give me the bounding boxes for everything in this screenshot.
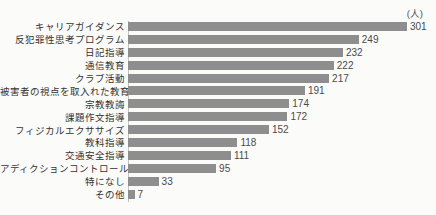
unit-label: (人) — [407, 6, 423, 20]
value-label: 301 — [410, 21, 427, 32]
bar — [128, 22, 407, 31]
chart-row: 日記指導232 — [0, 46, 436, 59]
bar — [128, 138, 237, 147]
bar-area: 301 — [128, 20, 427, 33]
bar-area: 152 — [128, 123, 289, 136]
value-label: 152 — [272, 124, 289, 135]
category-label: 課題作文指導 — [0, 110, 128, 124]
chart-row: 課題作文指導172 — [0, 110, 436, 123]
value-label: 7 — [138, 189, 144, 200]
category-label: アディクションコントロール — [0, 161, 128, 175]
bar-area: 174 — [128, 97, 309, 110]
value-label: 95 — [219, 163, 230, 174]
chart-rows: キャリアガイダンス301反犯罪性思考プログラム249日記指導232通信教育222… — [0, 20, 436, 200]
category-label: クラブ活動 — [0, 71, 128, 85]
bar — [128, 48, 343, 57]
category-label: その他 — [0, 187, 128, 201]
bar — [128, 61, 334, 70]
category-label: フィジカルエクササイズ — [0, 123, 128, 137]
category-label: 特になし — [0, 174, 128, 188]
bar-area: 222 — [128, 59, 353, 72]
category-label: 宗教教誨 — [0, 97, 128, 111]
bar — [128, 112, 287, 121]
bar-chart: (人) キャリアガイダンス301反犯罪性思考プログラム249日記指導232通信教… — [0, 0, 436, 215]
chart-row: フィジカルエクササイズ152 — [0, 123, 436, 136]
bar — [128, 164, 216, 173]
chart-row: 被害者の視点を取入れた教育191 — [0, 84, 436, 97]
category-label: 交通安全指導 — [0, 148, 128, 162]
value-label: 174 — [292, 98, 309, 109]
value-label: 249 — [362, 34, 379, 45]
bar — [128, 35, 359, 44]
category-label: 日記指導 — [0, 45, 128, 59]
bar-area: 7 — [128, 188, 143, 201]
category-label: 教科指導 — [0, 135, 128, 149]
bar — [128, 74, 329, 83]
chart-row: キャリアガイダンス301 — [0, 20, 436, 33]
chart-row: 反犯罪性思考プログラム249 — [0, 33, 436, 46]
bar-area: 217 — [128, 72, 349, 85]
bar-area: 232 — [128, 46, 363, 59]
bar — [128, 86, 305, 95]
value-label: 111 — [234, 150, 249, 161]
value-label: 118 — [240, 137, 256, 148]
category-label: 被害者の視点を取入れた教育 — [0, 84, 128, 98]
chart-row: 特になし33 — [0, 175, 436, 188]
bar — [128, 177, 159, 186]
value-label: 191 — [308, 85, 325, 96]
bar — [128, 190, 135, 199]
chart-row: 通信教育222 — [0, 59, 436, 72]
chart-row: 教科指導118 — [0, 136, 436, 149]
category-label: 反犯罪性思考プログラム — [0, 32, 128, 46]
bar — [128, 99, 289, 108]
chart-row: クラブ活動217 — [0, 72, 436, 85]
value-label: 222 — [337, 60, 354, 71]
value-label: 217 — [332, 73, 349, 84]
chart-row: アディクションコントロール95 — [0, 162, 436, 175]
bar-area: 33 — [128, 175, 173, 188]
value-label: 33 — [162, 176, 173, 187]
bar-area: 249 — [128, 33, 378, 46]
bar-area: 118 — [128, 136, 256, 149]
value-label: 172 — [290, 111, 307, 122]
category-label: 通信教育 — [0, 58, 128, 72]
bar-area: 111 — [128, 149, 249, 162]
category-label: キャリアガイダンス — [0, 19, 128, 33]
bar-area: 172 — [128, 110, 307, 123]
bar — [128, 151, 231, 160]
chart-row: その他7 — [0, 188, 436, 201]
bar-area: 95 — [128, 162, 230, 175]
chart-row: 交通安全指導111 — [0, 149, 436, 162]
chart-row: 宗教教誨174 — [0, 97, 436, 110]
value-label: 232 — [346, 47, 363, 58]
bar — [128, 125, 269, 134]
bar-area: 191 — [128, 84, 325, 97]
